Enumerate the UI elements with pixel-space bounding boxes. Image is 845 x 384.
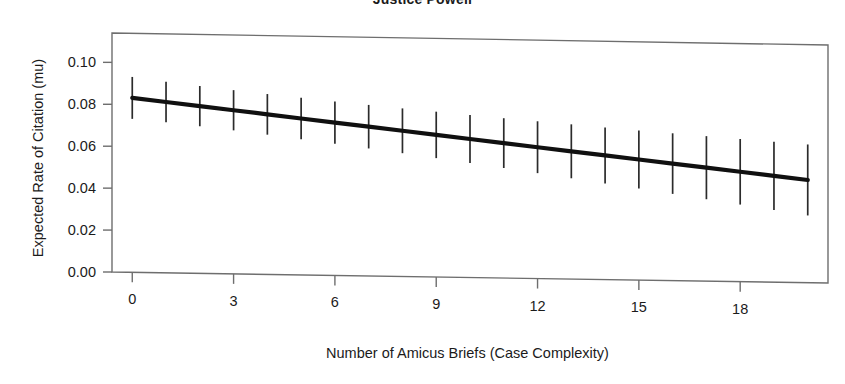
x-tick-label: 15 — [631, 299, 647, 315]
y-tick-label: 0.06 — [68, 138, 96, 154]
y-axis-tick-labels: 0.000.020.040.060.080.10 — [68, 54, 96, 280]
y-tick-label: 0.08 — [68, 96, 96, 112]
x-tick-label: 18 — [732, 301, 748, 317]
x-tick-label: 9 — [432, 296, 440, 312]
plot-area: 0.000.020.040.060.080.10 0369121518 — [0, 0, 845, 384]
x-tick-label: 3 — [230, 293, 238, 309]
y-axis-ticks — [103, 62, 112, 272]
y-tick-label: 0.10 — [68, 54, 96, 70]
y-tick-label: 0.04 — [68, 180, 96, 196]
x-tick-label: 6 — [331, 294, 339, 310]
chart-figure: Justice Powell Expected Rate of Citation… — [0, 0, 845, 384]
y-tick-label: 0.02 — [68, 222, 96, 238]
x-tick-label: 0 — [128, 291, 136, 307]
error-bars — [132, 77, 807, 216]
x-tick-label: 12 — [529, 298, 545, 314]
x-axis-ticks — [132, 272, 740, 291]
x-axis-tick-labels: 0369121518 — [128, 291, 748, 316]
y-tick-label: 0.00 — [68, 264, 96, 280]
